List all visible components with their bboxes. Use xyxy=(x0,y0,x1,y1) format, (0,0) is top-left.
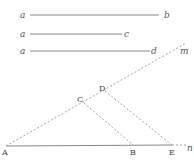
segment-ab: a b xyxy=(20,10,170,20)
label-D: D xyxy=(99,84,105,93)
label-C: C xyxy=(77,95,83,104)
label-a1: a xyxy=(20,10,25,20)
label-E: E xyxy=(169,148,175,157)
label-a2: a xyxy=(20,29,25,39)
label-n: n xyxy=(187,143,193,153)
segment-ac: a c xyxy=(20,29,129,39)
label-m: m xyxy=(180,46,189,56)
line-DE xyxy=(105,91,172,145)
label-A: A xyxy=(1,148,8,157)
label-a3: a xyxy=(20,46,25,56)
ray-Am xyxy=(6,43,186,146)
label-c: c xyxy=(124,29,129,39)
label-b: b xyxy=(164,10,170,20)
label-d: d xyxy=(151,46,157,56)
fourth-proportional-diagram: a b a c a d A B E n C D m xyxy=(0,0,194,168)
line-AE xyxy=(6,145,172,146)
line-CB xyxy=(84,103,133,145)
label-B: B xyxy=(130,148,136,157)
segment-ad: a d xyxy=(20,46,157,56)
